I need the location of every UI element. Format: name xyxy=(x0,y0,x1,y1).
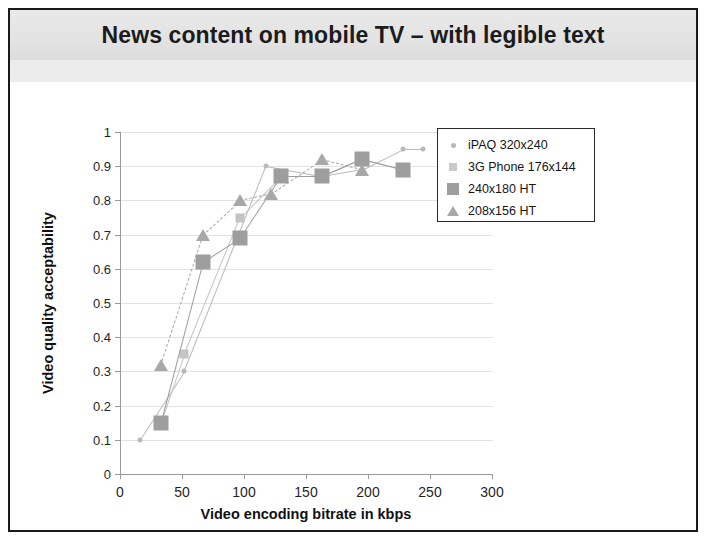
title-band: News content on mobile TV – with legible… xyxy=(10,10,696,60)
legend-marker-triangle-icon xyxy=(438,206,468,216)
legend-marker-square-light-icon xyxy=(438,163,468,171)
y-axis-title: Video quality acceptability xyxy=(38,132,58,474)
x-axis-tick xyxy=(492,474,493,479)
y-axis-tick-label: 1 xyxy=(104,125,111,140)
y-axis-tick xyxy=(115,371,120,372)
gridline-horizontal xyxy=(121,235,493,236)
legend-item-label: 3G Phone 176x144 xyxy=(468,160,576,174)
x-axis-tick-label: 250 xyxy=(418,484,441,500)
gridline-horizontal xyxy=(121,303,493,304)
gridline-horizontal xyxy=(121,406,493,407)
x-axis-tick xyxy=(120,474,121,479)
x-axis-tick-label: 100 xyxy=(232,484,255,500)
series-line-segment xyxy=(160,235,204,366)
y-axis-tick-label: 0.2 xyxy=(93,398,111,413)
legend-box: iPAQ 320x240 3G Phone 176x144 240x180 HT… xyxy=(437,128,595,222)
y-axis-tick xyxy=(115,235,120,236)
gridline-horizontal xyxy=(121,440,493,441)
x-axis-tick xyxy=(430,474,431,479)
x-axis-title-label: Video encoding bitrate in kbps xyxy=(201,506,412,522)
y-axis-tick-label: 0 xyxy=(104,467,111,482)
y-axis-tick-label: 0.5 xyxy=(93,296,111,311)
y-axis-tick xyxy=(115,132,120,133)
y-axis-title-label: Video quality acceptability xyxy=(40,212,56,394)
data-point-square-light xyxy=(180,350,189,359)
data-point-triangle xyxy=(264,188,278,200)
x-axis-tick-label: 0 xyxy=(116,484,124,500)
page-title: News content on mobile TV – with legible… xyxy=(102,22,605,49)
y-axis-tick xyxy=(115,303,120,304)
legend-item-label: 240x180 HT xyxy=(468,182,536,196)
x-axis-tick xyxy=(368,474,369,479)
y-axis-tick xyxy=(115,337,120,338)
y-axis-tick-label: 0.1 xyxy=(93,432,111,447)
data-point-triangle xyxy=(154,359,168,371)
y-axis-tick-label: 0.6 xyxy=(93,261,111,276)
legend-item-label: 208x156 HT xyxy=(468,204,536,218)
x-axis-tick-label: 200 xyxy=(356,484,379,500)
y-axis-tick-label: 0.3 xyxy=(93,364,111,379)
data-point-triangle xyxy=(233,194,247,206)
slide-frame: News content on mobile TV – with legible… xyxy=(8,8,698,532)
x-axis-tick xyxy=(182,474,183,479)
y-axis-tick xyxy=(115,440,120,441)
data-point-square-dark xyxy=(153,415,168,430)
data-point-dot xyxy=(137,437,142,442)
legend-item: 208x156 HT xyxy=(438,200,594,222)
legend-marker-dot-icon xyxy=(438,143,468,148)
x-axis-tick-label: 300 xyxy=(480,484,503,500)
data-point-triangle xyxy=(355,164,369,176)
legend-marker-square-dark-icon xyxy=(438,183,468,195)
x-axis-tick xyxy=(306,474,307,479)
title-underband xyxy=(10,60,696,82)
y-axis-tick xyxy=(115,406,120,407)
data-point-triangle xyxy=(315,153,329,165)
gridline-horizontal xyxy=(121,269,493,270)
data-point-dot xyxy=(264,164,269,169)
legend-item-label: iPAQ 320x240 xyxy=(468,138,548,152)
data-point-dot xyxy=(420,147,425,152)
y-axis-tick-label: 0.7 xyxy=(93,227,111,242)
data-point-dot xyxy=(182,369,187,374)
data-point-square-dark xyxy=(395,162,410,177)
data-point-square-dark xyxy=(274,169,289,184)
x-axis-tick xyxy=(244,474,245,479)
x-axis-tick-label: 150 xyxy=(294,484,317,500)
data-point-square-dark xyxy=(196,254,211,269)
x-axis-title: Video encoding bitrate in kbps xyxy=(120,506,492,522)
y-axis-tick xyxy=(115,166,120,167)
y-axis-tick-label: 0.9 xyxy=(93,159,111,174)
data-point-square-light xyxy=(236,213,245,222)
data-point-square-dark xyxy=(315,169,330,184)
data-point-dot xyxy=(400,147,405,152)
y-axis-tick xyxy=(115,269,120,270)
y-axis-tick-label: 0.8 xyxy=(93,193,111,208)
data-point-triangle xyxy=(196,229,210,241)
y-axis-tick xyxy=(115,200,120,201)
y-axis-tick-label: 0.4 xyxy=(93,330,111,345)
gridline-horizontal xyxy=(121,337,493,338)
legend-item: iPAQ 320x240 xyxy=(438,134,594,156)
data-point-square-dark xyxy=(233,231,248,246)
x-axis-tick-label: 50 xyxy=(174,484,190,500)
series-line-segment xyxy=(240,177,282,239)
legend-item: 240x180 HT xyxy=(438,178,594,200)
legend-item: 3G Phone 176x144 xyxy=(438,156,594,178)
chart-canvas: Video quality acceptability Video encodi… xyxy=(10,82,696,530)
